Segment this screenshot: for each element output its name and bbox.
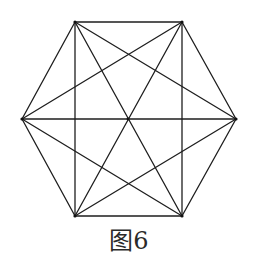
edge-FB: [22, 22, 182, 119]
vertex-C: [234, 117, 237, 120]
edge-CD: [182, 119, 236, 216]
vertex-B: [180, 20, 183, 23]
center-point: [127, 118, 130, 121]
figure-caption: 图6: [0, 226, 258, 256]
edge-BC: [182, 22, 236, 119]
edge-EF: [22, 119, 75, 216]
edge-AC: [75, 22, 236, 119]
vertex-D: [180, 214, 183, 217]
vertex-A: [73, 20, 76, 23]
edge-CE: [75, 119, 236, 216]
vertex-F: [20, 117, 23, 120]
edge-DF: [22, 119, 182, 216]
vertex-E: [73, 214, 76, 217]
edge-FA: [22, 22, 75, 119]
